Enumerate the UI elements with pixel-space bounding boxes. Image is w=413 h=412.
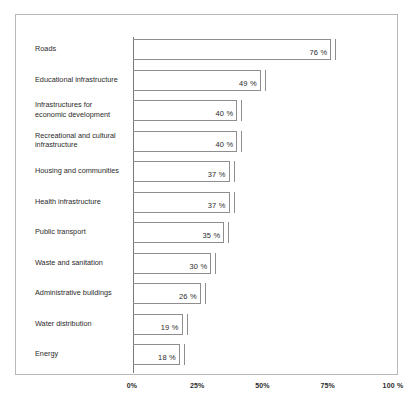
bar-row: 30 % (133, 251, 394, 282)
bar-row: 40 % (133, 129, 394, 160)
category-label: Health infrastructure (35, 197, 139, 207)
category-label: Roads (35, 44, 139, 54)
category-label: Recreational and cultural infrastructure (35, 131, 139, 150)
bar-row: 49 % (133, 68, 394, 99)
bar-value-label: 26 % (179, 292, 201, 301)
bar-end-cap (187, 314, 188, 335)
category-label: Energy (35, 349, 139, 359)
category-label: Housing and communities (35, 166, 139, 176)
bar-row: 35 % (133, 220, 394, 251)
x-axis-tick-label: 0% (127, 382, 138, 389)
category-label: Water distribution (35, 319, 139, 329)
bar-value-label: 30 % (189, 262, 211, 271)
bar-row: 37 % (133, 159, 394, 190)
bar-end-cap (215, 253, 216, 274)
bar-row: 40 % (133, 98, 394, 129)
category-label: Administrative buildings (35, 288, 139, 298)
bar-row: 18 % (133, 342, 394, 373)
bar-value-label: 18 % (158, 353, 180, 362)
bar-value-label: 37 % (208, 170, 230, 179)
x-axis-tick-label: 75% (320, 382, 335, 389)
bar-end-cap (205, 283, 206, 304)
bar-end-cap (234, 161, 235, 182)
category-label: Public transport (35, 227, 139, 237)
bar (133, 39, 331, 60)
bar-end-cap (335, 39, 336, 60)
category-label: Infrastructures for economic development (35, 100, 139, 119)
bar-row: 19 % (133, 312, 394, 343)
bar-value-label: 76 % (309, 48, 331, 57)
x-axis-tick-label: 100 % (383, 382, 404, 389)
bar-end-cap (265, 70, 266, 91)
bar-value-label: 49 % (239, 79, 261, 88)
bar-end-cap (184, 344, 185, 365)
bar-end-cap (241, 100, 242, 121)
bar-end-cap (228, 222, 229, 243)
category-label: Waste and sanitation (35, 258, 139, 268)
bar-end-cap (234, 192, 235, 213)
bar-value-label: 40 % (215, 109, 237, 118)
category-label: Educational infrastructure (35, 75, 139, 85)
x-axis-tick-label: 25% (190, 382, 205, 389)
bar-row: 37 % (133, 190, 394, 221)
bar-value-label: 37 % (208, 201, 230, 210)
x-axis-tick-label: 50% (255, 382, 270, 389)
plot-area: 76 %49 %40 %40 %37 %37 %35 %30 %26 %19 %… (133, 37, 394, 373)
bar-end-cap (241, 131, 242, 152)
chart-frame: 76 %49 %40 %40 %37 %37 %35 %30 %26 %19 %… (15, 14, 398, 375)
value-axis-tick-labels: 0%25%50%75%100 % (132, 382, 393, 398)
bar-row: 76 % (133, 37, 394, 68)
bar-value-label: 40 % (215, 140, 237, 149)
bar-row: 26 % (133, 281, 394, 312)
bar-value-label: 35 % (202, 231, 224, 240)
bar-value-label: 19 % (161, 323, 183, 332)
